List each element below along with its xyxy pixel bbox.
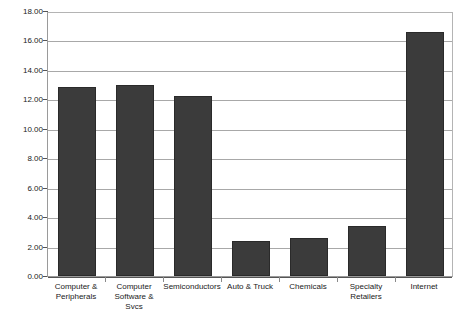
bar: [232, 241, 270, 276]
y-axis-tick-label: 2.00: [3, 244, 43, 252]
gridline: [48, 71, 452, 72]
y-axis-tick-label: 0.00: [3, 273, 43, 281]
x-axis-category-label: Specialty Retailers: [337, 282, 395, 302]
gridline: [48, 277, 452, 278]
bar: [116, 85, 154, 276]
y-axis-tick-label: 12.00: [3, 96, 43, 104]
bar: [348, 226, 386, 276]
bar: [174, 96, 212, 276]
x-axis-category-label: Computer Software & Svcs: [105, 282, 163, 312]
gridline: [48, 189, 452, 190]
bar: [406, 32, 444, 276]
x-axis-category-label: Chemicals: [279, 282, 337, 292]
bar: [290, 238, 328, 276]
plot-area: [47, 12, 453, 277]
y-axis-tick-label: 14.00: [3, 67, 43, 75]
y-axis-tick-label: 6.00: [3, 185, 43, 193]
gridline: [48, 218, 452, 219]
gridline: [48, 41, 452, 42]
y-axis-tick-label: 18.00: [3, 8, 43, 16]
gridline: [48, 159, 452, 160]
x-axis-category-label: Computer & Peripherals: [47, 282, 105, 302]
y-axis-tick-label: 16.00: [3, 37, 43, 45]
x-axis-category-label: Internet: [395, 282, 453, 292]
y-axis-tick-label: 8.00: [3, 155, 43, 163]
y-axis-tick-label: 4.00: [3, 214, 43, 222]
gridline: [48, 130, 452, 131]
bar: [58, 87, 96, 276]
x-axis-category-label: Semiconductors: [163, 282, 221, 292]
y-axis-tick-label: 10.00: [3, 126, 43, 134]
x-axis-category-label: Auto & Truck: [221, 282, 279, 292]
bar-chart: 0.002.004.006.008.0010.0012.0014.0016.00…: [0, 0, 458, 316]
gridline: [48, 100, 452, 101]
